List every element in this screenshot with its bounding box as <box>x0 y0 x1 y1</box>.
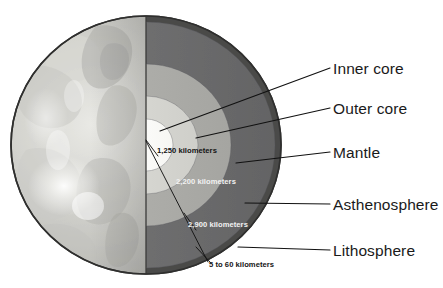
callout-label-mantle: Mantle <box>333 145 380 161</box>
callout-label-lithosphere: Lithosphere <box>333 243 415 259</box>
depth-label-lithosphere: 5 to 60 kilometers <box>209 261 274 269</box>
depth-label-outer-core: 2,200 kilometers <box>176 178 236 186</box>
leader-line-lithosphere <box>238 247 330 250</box>
callout-label-inner-core: Inner core <box>333 61 404 77</box>
callout-label-outer-core: Outer core <box>333 101 407 117</box>
callout-label-asthenosphere: Asthenosphere <box>333 197 439 213</box>
depth-label-inner-core: 1,250 kilometers <box>157 147 217 155</box>
depth-label-mantle: 2,900 kilometers <box>188 221 248 229</box>
earth-interior-diagram: Inner core Outer core Mantle Asthenosphe… <box>0 0 443 288</box>
